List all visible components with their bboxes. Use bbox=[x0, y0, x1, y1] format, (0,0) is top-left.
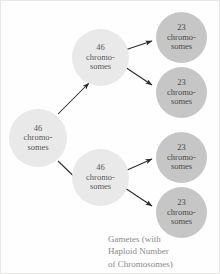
caption-line-2: Haploid Number bbox=[108, 245, 212, 257]
chromosome-label-line2: somes bbox=[171, 42, 192, 52]
cell-node-gamete-4: 23 chromo- somes bbox=[156, 187, 207, 238]
arrow-parent-to-daughter-top bbox=[58, 83, 89, 114]
chromosome-label-line2: somes bbox=[90, 62, 111, 72]
cell-node-gamete-3: 23 chromo- somes bbox=[156, 132, 207, 183]
caption-line-1: Gametes (with bbox=[108, 233, 212, 245]
arrow-daughter-top-to-gamete-1 bbox=[125, 41, 152, 50]
cell-node-daughter-bottom: 46 chromo- somes bbox=[72, 149, 129, 206]
cell-node-daughter-top: 46 chromo- somes bbox=[72, 29, 129, 86]
arrow-daughter-bottom-to-gamete-3 bbox=[125, 159, 152, 171]
chromosome-label-line2: somes bbox=[90, 182, 111, 192]
caption-line-3: of Chromosomes) bbox=[108, 258, 212, 270]
chromosome-label-line2: somes bbox=[171, 162, 192, 172]
cell-node-gamete-1: 23 chromo- somes bbox=[156, 12, 207, 63]
arrow-daughter-top-to-gamete-2 bbox=[125, 67, 152, 85]
cell-node-parent: 46 chromo- somes bbox=[9, 109, 67, 167]
chromosome-label-line2: somes bbox=[171, 217, 192, 227]
arrow-daughter-bottom-to-gamete-4 bbox=[125, 188, 152, 206]
chromosome-label-line2: somes bbox=[27, 143, 48, 153]
gametes-caption: Gametes (with Haploid Number of Chromoso… bbox=[108, 233, 212, 270]
cell-node-gamete-2: 23 chromo- somes bbox=[156, 67, 207, 118]
chromosome-label-line2: somes bbox=[171, 97, 192, 107]
meiosis-diagram: 46 chromo- somes 46 chromo- somes 46 chr… bbox=[0, 0, 220, 274]
